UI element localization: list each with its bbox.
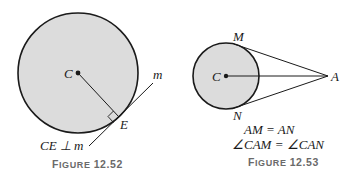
label-n: N [232, 108, 243, 123]
statement-equal-tangents: AM = AN [243, 122, 296, 137]
center-point-c [224, 74, 228, 78]
label-e: E [119, 117, 128, 132]
caption-figure-12-52: FIGURE 12.52 [52, 158, 123, 170]
label-m: M [232, 29, 245, 44]
caption-figure-12-53: FIGURE 12.53 [248, 156, 319, 168]
figure-12-53: C M N A AM = AN ∠CAM = ∠CAN FIGURE 12.53 [193, 29, 339, 168]
center-point-c [76, 71, 81, 76]
statement-equal-angles: ∠CAM = ∠CAN [232, 137, 325, 152]
geometry-figures: C E m CE ⊥ m FIGURE 12.52 C M N A AM = A… [0, 0, 355, 176]
label-c: C [212, 69, 221, 84]
statement-perpendicular: CE ⊥ m [40, 138, 84, 153]
label-c: C [64, 66, 73, 81]
label-m: m [153, 67, 162, 82]
label-a: A [330, 69, 339, 84]
figure-12-52: C E m CE ⊥ m FIGURE 12.52 [18, 13, 162, 170]
